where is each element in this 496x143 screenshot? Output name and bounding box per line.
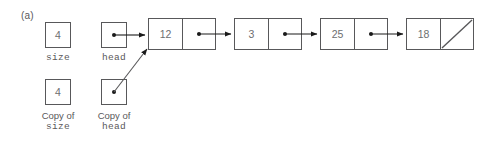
list-node-2-pointer-dot	[369, 32, 373, 36]
list-node-2-next-cell	[354, 19, 387, 49]
null-terminator-icon	[441, 19, 473, 49]
size-box: 4	[45, 22, 71, 48]
list-node-1-value: 3	[235, 29, 268, 40]
head-caption-label: head	[89, 52, 139, 63]
list-node-0-pointer-dot	[197, 32, 201, 36]
list-node-0-next-cell	[182, 19, 215, 49]
list-node-1-pointer-dot	[283, 32, 287, 36]
size-value: 4	[46, 30, 70, 41]
list-node-2: 25	[320, 18, 388, 50]
copy-of-head-box	[101, 79, 127, 105]
head-caption: head	[89, 52, 139, 63]
list-node-2-data-cell: 25	[321, 19, 354, 49]
list-node-0: 12	[148, 18, 216, 50]
copy-of-size-caption: Copy of size	[28, 110, 88, 132]
list-node-3-data-cell: 18	[407, 19, 440, 49]
copy-of-size-caption-label: size	[28, 121, 88, 132]
copy-of-size-box: 4	[45, 79, 71, 105]
list-node-0-value: 12	[149, 29, 182, 40]
copy-of-size-value: 4	[46, 87, 70, 98]
figure-label: (a)	[21, 10, 34, 21]
list-node-0-data-cell: 12	[149, 19, 182, 49]
head-pointer-dot	[112, 33, 116, 37]
copy-of-head-pointer-dot	[112, 90, 116, 94]
size-caption: size	[33, 52, 83, 63]
head-box	[101, 22, 127, 48]
list-node-1-next-cell	[268, 19, 301, 49]
list-node-1-data-cell: 3	[235, 19, 268, 49]
copy-of-head-caption-label: head	[84, 121, 144, 132]
list-node-1: 3	[234, 18, 302, 50]
size-caption-label: size	[33, 52, 83, 63]
copy-of-size-caption-top: Copy of	[28, 110, 88, 121]
copy-of-head-caption: Copy of head	[84, 110, 144, 132]
copy-of-head-caption-top: Copy of	[84, 110, 144, 121]
list-node-3-value: 18	[407, 29, 440, 40]
list-node-2-value: 25	[321, 29, 354, 40]
list-node-3-null-cell	[440, 19, 473, 49]
list-node-3: 18	[406, 18, 474, 50]
linked-list-diagram: (a) 4 size head 4 Copy of size Copy of h…	[0, 0, 496, 143]
